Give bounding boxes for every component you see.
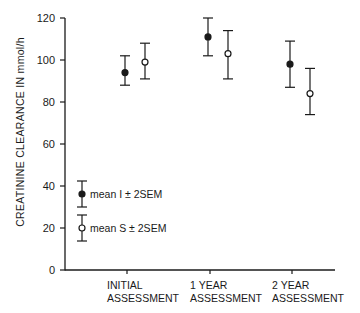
x-tick-label: INITIALASSESSMENT bbox=[107, 279, 179, 305]
open-circle-marker bbox=[142, 59, 148, 65]
y-tick-label: 60 bbox=[25, 138, 55, 150]
x-tick-label: 1 YEARASSESSMENT bbox=[190, 279, 262, 305]
legend-label: mean I ± 2SEM bbox=[90, 188, 162, 200]
legend-label: mean S ± 2SEM bbox=[90, 222, 166, 234]
y-tick-label: 20 bbox=[25, 222, 55, 234]
open-circle-marker bbox=[307, 91, 313, 97]
chart: CREATININE CLEARANCE IN mmol/h 020406080… bbox=[0, 0, 360, 313]
y-tick-label: 120 bbox=[25, 12, 55, 24]
filled-circle-marker bbox=[287, 61, 293, 67]
filled-circle-marker bbox=[205, 34, 211, 40]
filled-circle-marker bbox=[79, 191, 85, 197]
y-tick-label: 40 bbox=[25, 180, 55, 192]
filled-circle-marker bbox=[122, 70, 128, 76]
y-tick-label: 100 bbox=[25, 54, 55, 66]
open-circle-marker bbox=[225, 51, 231, 57]
open-circle-marker bbox=[79, 225, 85, 231]
y-tick-label: 80 bbox=[25, 96, 55, 108]
x-tick-label: 2 YEARASSESSMENT bbox=[272, 279, 344, 305]
y-tick-label: 0 bbox=[25, 264, 55, 276]
